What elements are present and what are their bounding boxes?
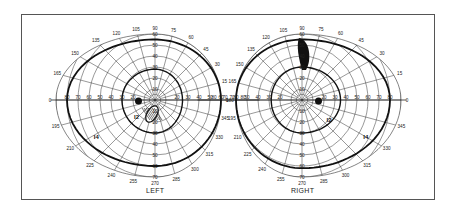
svg-text:90: 90 (152, 26, 158, 31)
svg-text:285: 285 (320, 179, 328, 184)
svg-text:255: 255 (129, 179, 137, 184)
svg-text:300: 300 (342, 173, 350, 178)
svg-text:240: 240 (108, 173, 116, 178)
right-field: I4I2102030405060102030405060702020303040… (192, 0, 412, 210)
svg-text:30: 30 (332, 95, 338, 100)
svg-text:195: 195 (228, 116, 236, 121)
svg-text:50: 50 (152, 153, 158, 158)
right-eye-label: RIGHT (291, 187, 314, 194)
svg-text:315: 315 (206, 152, 214, 157)
svg-text:150: 150 (236, 62, 244, 67)
svg-text:180: 180 (226, 98, 234, 103)
svg-text:50: 50 (299, 153, 305, 158)
isopter-label: I4 (363, 134, 369, 140)
svg-text:30: 30 (185, 95, 191, 100)
svg-text:30: 30 (299, 131, 305, 136)
isopter-label: I2 (327, 117, 333, 123)
svg-text:10: 10 (152, 87, 158, 92)
svg-text:345: 345 (398, 124, 406, 129)
svg-text:90: 90 (299, 26, 305, 31)
svg-text:255: 255 (277, 177, 285, 182)
svg-text:10: 10 (299, 109, 305, 114)
svg-text:315: 315 (363, 163, 371, 168)
visual-field-chart: I4I2102030405060102030405060702020303040… (0, 0, 459, 212)
svg-text:210: 210 (234, 135, 242, 140)
svg-text:225: 225 (86, 163, 94, 168)
svg-text:40: 40 (343, 95, 349, 100)
svg-text:50: 50 (97, 95, 103, 100)
svg-text:60: 60 (338, 31, 344, 36)
svg-text:60: 60 (299, 164, 305, 169)
svg-text:45: 45 (203, 47, 209, 52)
svg-text:240: 240 (258, 167, 266, 172)
svg-text:135: 135 (92, 38, 100, 43)
svg-text:330: 330 (216, 135, 224, 140)
svg-text:20: 20 (152, 76, 158, 81)
svg-text:50: 50 (152, 43, 158, 48)
svg-text:40: 40 (299, 54, 305, 59)
svg-text:50: 50 (244, 95, 250, 100)
svg-text:210: 210 (66, 146, 74, 151)
svg-text:105: 105 (280, 28, 288, 33)
svg-text:40: 40 (108, 95, 114, 100)
svg-text:50: 50 (354, 95, 360, 100)
svg-text:30: 30 (266, 95, 272, 100)
svg-text:330: 330 (383, 146, 391, 151)
svg-text:60: 60 (188, 35, 194, 40)
svg-text:40: 40 (196, 95, 202, 100)
svg-text:0: 0 (406, 98, 409, 103)
blind-spot (135, 98, 142, 105)
svg-text:120: 120 (262, 35, 270, 40)
svg-text:30: 30 (299, 65, 305, 70)
svg-text:70: 70 (376, 95, 382, 100)
svg-text:60: 60 (152, 32, 158, 37)
isopter-label: I4 (94, 134, 100, 140)
svg-text:60: 60 (86, 95, 92, 100)
svg-text:120: 120 (113, 31, 121, 36)
svg-text:270: 270 (151, 181, 159, 186)
svg-text:20: 20 (152, 120, 158, 125)
svg-text:20: 20 (174, 95, 180, 100)
svg-text:30: 30 (152, 65, 158, 70)
svg-text:30: 30 (379, 51, 385, 56)
left-eye-label: LEFT (146, 187, 164, 194)
svg-text:15: 15 (397, 71, 403, 76)
svg-text:270: 270 (298, 181, 306, 186)
left-field: I4I2102030405060102030405060702020303040… (45, 0, 265, 210)
isopter-label: I2 (134, 114, 140, 120)
svg-text:20: 20 (277, 95, 283, 100)
svg-text:0: 0 (49, 98, 52, 103)
svg-text:40: 40 (255, 95, 261, 100)
svg-text:105: 105 (132, 27, 140, 32)
svg-text:75: 75 (318, 27, 324, 32)
svg-text:60: 60 (299, 32, 305, 37)
svg-text:135: 135 (247, 47, 255, 52)
svg-text:225: 225 (244, 152, 252, 157)
svg-text:165: 165 (54, 71, 62, 76)
svg-text:30: 30 (215, 62, 221, 67)
svg-text:40: 40 (152, 54, 158, 59)
svg-text:10: 10 (299, 87, 305, 92)
svg-text:285: 285 (172, 177, 180, 182)
svg-text:70: 70 (75, 95, 81, 100)
svg-text:20: 20 (130, 95, 136, 100)
svg-text:40: 40 (299, 142, 305, 147)
svg-text:80: 80 (211, 95, 217, 100)
svg-text:195: 195 (52, 124, 60, 129)
svg-text:75: 75 (171, 28, 177, 33)
svg-text:40: 40 (152, 142, 158, 147)
svg-text:80: 80 (387, 95, 393, 100)
svg-text:150: 150 (71, 51, 79, 56)
svg-text:20: 20 (321, 95, 327, 100)
svg-text:60: 60 (152, 164, 158, 169)
svg-text:60: 60 (233, 95, 239, 100)
svg-text:165: 165 (229, 79, 237, 84)
svg-text:30: 30 (119, 95, 125, 100)
svg-text:30: 30 (152, 131, 158, 136)
svg-text:70: 70 (299, 175, 305, 180)
svg-text:50: 50 (299, 43, 305, 48)
svg-text:300: 300 (191, 167, 199, 172)
svg-text:70: 70 (152, 175, 158, 180)
svg-text:45: 45 (359, 38, 365, 43)
svg-text:20: 20 (299, 76, 305, 81)
